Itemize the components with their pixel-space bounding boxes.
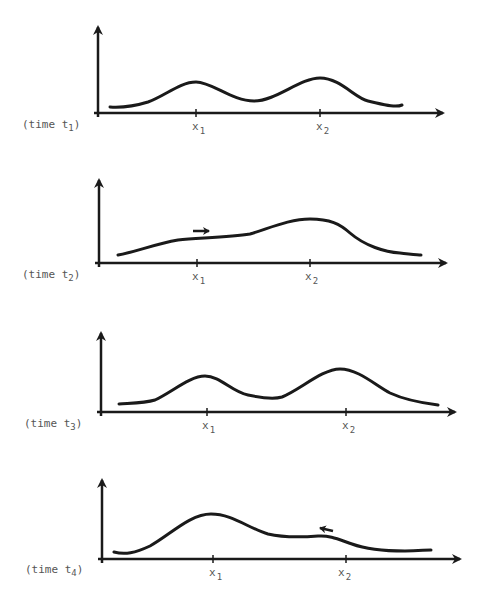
distribution-diagram: (time t1) x1 x2 (time t2) x1 x2 (time t3…	[0, 0, 483, 603]
distribution-curve	[118, 219, 421, 255]
time-label-t2: (time t2)	[22, 268, 80, 281]
x2-label: x2	[338, 566, 351, 579]
panel-t2	[95, 180, 446, 267]
panel-t1	[94, 27, 443, 117]
time-label-t3: (time t3)	[24, 417, 82, 430]
distribution-curve	[119, 369, 438, 405]
time-label-t4: (time t4)	[25, 563, 83, 576]
distribution-curve	[114, 514, 431, 553]
x2-label: x2	[342, 419, 355, 432]
distribution-curve	[110, 78, 402, 107]
x1-label: x1	[192, 270, 205, 283]
panel-t4	[98, 480, 460, 563]
x1-label: x1	[209, 566, 222, 579]
leftward-flow-arrow-icon	[320, 528, 333, 531]
panel-t3	[97, 333, 455, 416]
x2-label: x2	[305, 270, 318, 283]
x2-label: x2	[316, 120, 329, 133]
diagram-canvas	[0, 0, 483, 603]
x1-label: x1	[192, 120, 205, 133]
x1-label: x1	[202, 419, 215, 432]
time-label-t1: (time t1)	[22, 118, 80, 131]
